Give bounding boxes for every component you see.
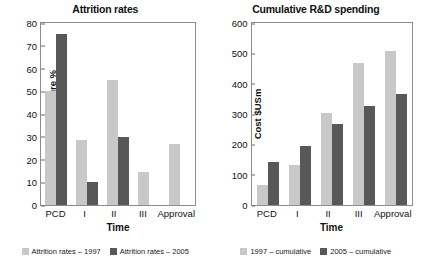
y-tick-left-70: 70 — [26, 40, 41, 51]
bar-right-iii-1997 — [353, 63, 364, 205]
bar-group-left-i — [72, 23, 103, 205]
legend-label: 1997 – cumulative — [250, 247, 311, 256]
bar-left-ii-2005 — [118, 137, 129, 205]
bar-group-left-ii — [103, 23, 134, 205]
bar-left-iii-1997 — [138, 172, 149, 205]
legend-item-right-1997[interactable]: 1997 – cumulative — [240, 247, 311, 256]
legend-item-left-1997[interactable]: Attrition rates – 1997 — [22, 247, 101, 256]
y-tick-left-20: 20 — [26, 154, 41, 165]
y-tick-right-200: 200 — [232, 139, 252, 150]
legend-right: 1997 – cumulative2005 – cumulative — [211, 247, 421, 256]
x-tick-right-iii: III — [343, 208, 374, 219]
bar-group-right-iii — [348, 23, 380, 205]
bar-left-approval-1997 — [169, 144, 180, 205]
x-tick-right-approval: Approval — [374, 208, 412, 219]
legend-swatch-icon-2005 — [320, 248, 327, 255]
bar-right-i-1997 — [289, 165, 300, 205]
y-tick-left-10: 10 — [26, 177, 41, 188]
x-axis-ticks-left: PCDIIIIIIApproval — [41, 205, 195, 219]
bar-group-left-pcd — [41, 23, 72, 205]
y-tick-left-60: 60 — [26, 63, 41, 74]
y-tick-right-300: 300 — [232, 109, 252, 120]
bar-group-left-iii — [133, 23, 164, 205]
bar-left-i-2005 — [87, 182, 98, 205]
legend-swatch-icon-1997 — [240, 248, 247, 255]
bar-left-pcd-2005 — [56, 34, 67, 205]
chart-title-left: Attrition rates — [0, 3, 211, 15]
bar-right-approval-2005 — [396, 94, 407, 205]
y-tick-left-80: 80 — [26, 18, 41, 29]
bar-left-pcd-1997 — [45, 91, 56, 205]
bar-series-right — [252, 23, 412, 205]
chart-title-right: Cumulative R&D spending — [211, 3, 421, 15]
x-axis-ticks-right: PCDIIIIIIApproval — [252, 205, 412, 219]
x-tick-left-ii: II — [99, 208, 128, 219]
bar-series-left — [41, 23, 195, 205]
y-tick-left-40: 40 — [26, 109, 41, 120]
y-tick-right-600: 600 — [232, 18, 252, 29]
x-tick-left-pcd: PCD — [41, 208, 70, 219]
legend-label: Attrition rates – 2005 — [120, 247, 189, 256]
legend-item-left-2005[interactable]: Attrition rates – 2005 — [110, 247, 189, 256]
y-tick-left-50: 50 — [26, 86, 41, 97]
x-tick-left-approval: Approval — [158, 208, 196, 219]
legend-left: Attrition rates – 1997Attrition rates – … — [0, 247, 211, 256]
legend-item-right-2005[interactable]: 2005 – cumulative — [320, 247, 391, 256]
plot-area-left: Chance of failure % 01020304050607080 PC… — [40, 22, 196, 206]
y-tick-right-400: 400 — [232, 78, 252, 89]
x-tick-left-i: I — [70, 208, 99, 219]
legend-label: Attrition rates – 1997 — [32, 247, 101, 256]
bar-right-approval-1997 — [385, 51, 396, 205]
x-axis-label-right: Time — [252, 222, 412, 233]
y-tick-left-30: 30 — [26, 131, 41, 142]
bar-group-right-i — [284, 23, 316, 205]
bar-group-right-approval — [380, 23, 412, 205]
bar-right-iii-2005 — [364, 106, 375, 205]
y-tick-right-100: 100 — [232, 169, 252, 180]
legend-swatch-icon-2005 — [110, 248, 117, 255]
plot-area-right: Cost $USm 0100200300400500600 PCDIIIIIIA… — [251, 22, 413, 206]
x-tick-right-ii: II — [313, 208, 344, 219]
bar-right-ii-1997 — [321, 113, 332, 205]
y-tick-right-500: 500 — [232, 48, 252, 59]
x-tick-right-i: I — [282, 208, 313, 219]
bar-right-pcd-2005 — [268, 162, 279, 205]
chart-panel-cumulative-rd-spending: Cumulative R&D spending Cost $USm 010020… — [211, 0, 421, 262]
bar-right-pcd-1997 — [257, 185, 268, 205]
y-tick-left-0: 0 — [32, 200, 41, 211]
chart-panel-attrition-rates: Attrition rates Chance of failure % 0102… — [0, 0, 211, 262]
bar-group-left-approval — [164, 23, 195, 205]
bar-left-ii-1997 — [107, 80, 118, 205]
bar-left-i-1997 — [76, 140, 87, 205]
bar-right-i-2005 — [300, 146, 311, 205]
y-tick-right-0: 0 — [242, 200, 251, 211]
bar-group-right-pcd — [252, 23, 284, 205]
x-axis-label-left: Time — [41, 222, 195, 233]
bar-right-ii-2005 — [332, 124, 343, 205]
legend-label: 2005 – cumulative — [330, 247, 391, 256]
x-tick-left-iii: III — [128, 208, 157, 219]
figure: Attrition rates Chance of failure % 0102… — [0, 0, 421, 262]
legend-swatch-icon-1997 — [22, 248, 29, 255]
bar-group-right-ii — [316, 23, 348, 205]
x-tick-right-pcd: PCD — [252, 208, 283, 219]
